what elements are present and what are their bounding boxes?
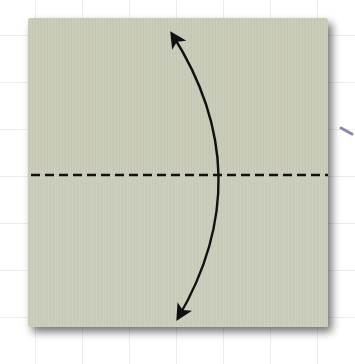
paper-lower-half <box>28 175 328 327</box>
origami-diagram <box>0 0 355 364</box>
diagram-canvas <box>0 0 355 364</box>
